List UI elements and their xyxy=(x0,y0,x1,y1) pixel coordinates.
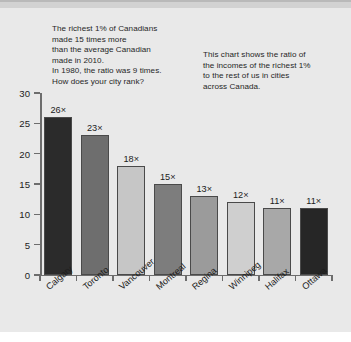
top-strip-decoration xyxy=(0,0,351,8)
bar[interactable] xyxy=(117,166,145,275)
bar[interactable] xyxy=(81,135,109,275)
bar[interactable] xyxy=(263,208,291,275)
x-tick-mark xyxy=(258,275,260,281)
y-tick-label: 10 xyxy=(8,209,30,220)
bar[interactable] xyxy=(300,208,328,275)
bar-value-label: 11× xyxy=(270,196,285,206)
bar-value-label: 12× xyxy=(233,190,249,200)
bar-value-label: 23× xyxy=(87,123,103,133)
bar-value-label: 26× xyxy=(50,105,66,115)
bar-value-label: 15× xyxy=(160,172,176,182)
bar-value-label: 13× xyxy=(196,184,212,194)
x-tick-mark xyxy=(222,275,224,281)
bar-chart: 051015202530 26×23×18×15×13×12×11×11× Ca… xyxy=(0,8,351,342)
x-tick-mark xyxy=(331,275,333,281)
bar-value-label: 11× xyxy=(306,196,321,206)
y-tick-label: 0 xyxy=(8,270,30,281)
x-tick-mark xyxy=(76,275,78,281)
bar[interactable] xyxy=(190,196,218,275)
x-tick-mark xyxy=(112,275,114,281)
y-tick-label: 15 xyxy=(8,179,30,190)
chart-panel: The richest 1% of Canadians made 15 time… xyxy=(0,8,351,332)
bar-value-label: 18× xyxy=(123,154,139,164)
bars-container xyxy=(40,93,332,275)
bottom-strip-decoration xyxy=(0,332,351,342)
x-tick-mark xyxy=(149,275,151,281)
chart-page: The richest 1% of Canadians made 15 time… xyxy=(0,0,351,342)
y-tick-label: 25 xyxy=(8,118,30,129)
x-tick-mark xyxy=(295,275,297,281)
bar[interactable] xyxy=(154,184,182,275)
x-tick-mark xyxy=(185,275,187,281)
y-tick-label: 20 xyxy=(8,148,30,159)
y-tick-label: 30 xyxy=(8,88,30,99)
bar[interactable] xyxy=(44,117,72,275)
y-tick-label: 5 xyxy=(8,239,30,250)
x-tick-mark xyxy=(39,275,41,281)
